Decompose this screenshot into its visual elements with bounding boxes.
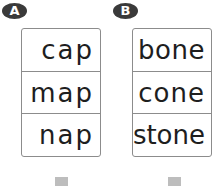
badge-a: A (2, 3, 27, 19)
word-box-a: cap map nap (21, 28, 101, 157)
word-cone: cone (133, 72, 211, 115)
word-bone: bone (133, 29, 211, 72)
word-box-b: bone cone stone (132, 28, 212, 157)
word-map: map (22, 72, 100, 115)
word-stone: stone (133, 114, 211, 156)
word-nap: nap (22, 114, 100, 156)
marker-a (55, 177, 68, 186)
badge-b: B (113, 3, 138, 19)
word-cap: cap (22, 29, 100, 72)
marker-b (168, 177, 181, 186)
